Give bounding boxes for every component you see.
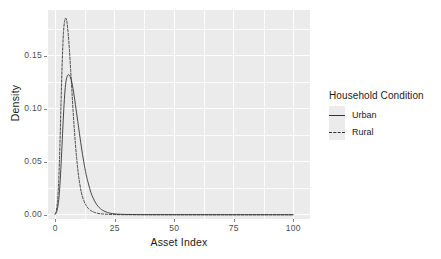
legend: Household Condition UrbanRural [329, 90, 441, 140]
legend-key-line-solid [329, 115, 345, 116]
y-tick-label: 0.15 [8, 50, 42, 60]
x-tick-label: 75 [214, 223, 254, 233]
y-tick-label: 0.10 [8, 103, 42, 113]
y-axis-ticks: 0.000.050.100.15 [6, 0, 42, 259]
legend-items: UrbanRural [329, 106, 441, 140]
x-axis-title: Asset Index [48, 236, 310, 248]
y-tick-mark [44, 162, 47, 163]
density-curves [48, 10, 310, 219]
y-tick-label: 0.00 [8, 209, 42, 219]
x-tick-mark [115, 219, 116, 222]
legend-key-swatch [329, 123, 345, 140]
x-tick-mark [293, 219, 294, 222]
legend-label: Rural [352, 127, 374, 137]
x-tick-label: 0 [35, 223, 75, 233]
plot-panel [48, 10, 310, 219]
x-tick-mark [234, 219, 235, 222]
x-tick-mark [55, 219, 56, 222]
density-curve-rural [55, 18, 293, 215]
density-plot-figure: Density 0.000.050.100.15 0255075100 Asse… [0, 0, 441, 259]
legend-label: Urban [352, 110, 377, 120]
y-tick-mark [44, 109, 47, 110]
density-curve-urban [55, 75, 293, 215]
legend-item-rural[interactable]: Rural [329, 123, 441, 140]
x-tick-mark [174, 219, 175, 222]
legend-key-swatch [329, 106, 345, 123]
x-tick-label: 100 [273, 223, 313, 233]
x-tick-label: 25 [95, 223, 135, 233]
y-tick-mark [44, 215, 47, 216]
y-tick-label: 0.05 [8, 156, 42, 166]
legend-key-line-dashed [329, 132, 345, 133]
x-tick-label: 50 [154, 223, 194, 233]
y-tick-mark [44, 56, 47, 57]
legend-title: Household Condition [329, 90, 441, 101]
legend-item-urban[interactable]: Urban [329, 106, 441, 123]
